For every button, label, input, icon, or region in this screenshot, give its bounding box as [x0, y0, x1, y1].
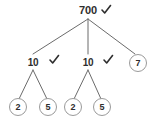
tree-graphics — [0, 0, 155, 122]
composite-node-value: 10 — [83, 57, 94, 68]
composite-node-value: 10 — [28, 57, 39, 68]
factor-tree-diagram: 700101072525 — [0, 0, 155, 122]
tree-edge — [74, 70, 88, 99]
tree-edge — [33, 70, 47, 99]
check-icon — [50, 56, 59, 64]
tree-edge — [88, 19, 135, 54]
tree-edge — [33, 19, 88, 54]
prime-node-value: 7 — [135, 58, 140, 68]
composite-node-value: 700 — [79, 4, 97, 16]
prime-node-value: 2 — [15, 102, 20, 112]
check-icon — [102, 6, 111, 14]
prime-node-value: 5 — [99, 102, 104, 112]
tree-edge — [19, 70, 33, 99]
check-icon — [104, 56, 113, 64]
tree-edge — [88, 70, 101, 99]
prime-node-value: 5 — [45, 102, 50, 112]
prime-node-value: 2 — [70, 102, 75, 112]
